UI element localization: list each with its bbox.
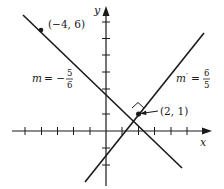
slope-m-numerator: 5 xyxy=(67,68,72,78)
slope-label-m: m = − 5 6 xyxy=(32,68,73,90)
point-neg4-6-label: (−4, 6) xyxy=(48,18,85,30)
point-neg4-6 xyxy=(39,28,44,33)
slope-m-equals-label: = − xyxy=(44,72,65,84)
x-axis-arrow-icon xyxy=(202,128,212,135)
slope-label-m-prime: m ′ = 6 5 xyxy=(176,68,210,90)
point-2-1 xyxy=(136,112,141,117)
slope-m-prime-prefix-label: m xyxy=(176,72,186,84)
slope-m-prime-equals-label: = xyxy=(191,72,200,84)
right-angle-marker xyxy=(132,103,144,109)
slope-m-prime-denominator: 5 xyxy=(204,80,209,90)
x-axis: x xyxy=(12,127,212,149)
y-axis: y xyxy=(93,4,110,186)
slope-m-prefix-label: m xyxy=(32,72,42,84)
slope-m-denominator: 6 xyxy=(67,80,72,90)
leader-arrow xyxy=(140,111,158,116)
y-axis-arrow-icon xyxy=(103,6,110,16)
coordinate-plane-diagram: x y (−4, 6) (2, 1) m = − 5 xyxy=(0,0,224,189)
slope-m-prime-numerator: 6 xyxy=(204,68,209,78)
slope-m-prime-prime-mark: ′ xyxy=(186,71,188,80)
x-axis-label: x xyxy=(200,136,207,149)
y-axis-label: y xyxy=(93,4,101,17)
point-2-1-label: (2, 1) xyxy=(160,105,188,117)
